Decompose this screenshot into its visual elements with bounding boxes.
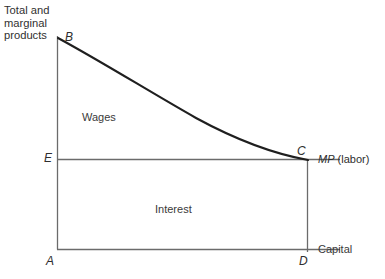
point-label-c: C [297,145,306,158]
point-label-e: E [44,152,52,165]
y-axis-title-line-2: marginal [4,17,49,30]
y-axis-title: Total and marginal products [4,4,49,42]
x-axis-label-capital: Capital [318,243,352,256]
economics-diagram: Total and marginal products B C E A D Wa… [0,0,385,279]
y-axis-title-line-1: Total and [4,4,49,17]
point-label-b: B [65,31,73,44]
point-label-a: A [46,255,54,268]
diagram-canvas [0,0,385,279]
y-axis-title-line-3: products [4,29,49,42]
curve-label-mp-labor: MP (labor) [318,153,369,166]
region-label-interest: Interest [155,203,192,216]
curve-label-mp-italic: MP [318,153,335,165]
marginal-product-curve [58,38,308,160]
point-label-d: D [299,255,308,268]
curve-label-mp-rest: (labor) [335,153,370,165]
region-label-wages: Wages [82,111,116,124]
